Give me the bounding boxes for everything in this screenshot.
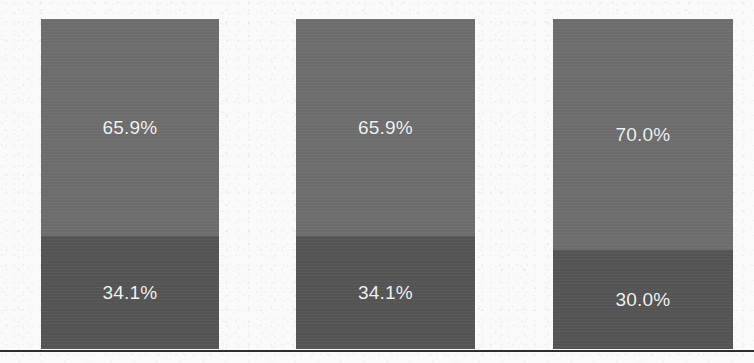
bar-group-3[interactable]: 70.0% 30.0%	[553, 19, 733, 349]
bar-segment-upper-2[interactable]: 65.9%	[296, 19, 475, 236]
bar-segment-upper-3[interactable]: 70.0%	[553, 19, 733, 250]
bar-segment-label: 70.0%	[616, 125, 671, 144]
bar-segment-label: 30.0%	[616, 290, 671, 309]
bar-group-1[interactable]: 65.9% 34.1%	[41, 19, 219, 349]
stacked-bar-chart: 65.9% 34.1% 65.9% 34.1% 70.0% 30.0%	[0, 0, 754, 363]
x-axis-line	[0, 350, 754, 352]
bar-segment-label: 65.9%	[358, 118, 413, 137]
bar-segment-lower-3[interactable]: 30.0%	[553, 250, 733, 349]
bar-segment-label: 65.9%	[103, 118, 158, 137]
bar-segment-lower-1[interactable]: 34.1%	[41, 236, 219, 349]
bar-segment-lower-2[interactable]: 34.1%	[296, 236, 475, 349]
bar-segment-label: 34.1%	[358, 283, 413, 302]
bar-segment-label: 34.1%	[103, 283, 158, 302]
bar-group-2[interactable]: 65.9% 34.1%	[296, 19, 475, 349]
chart-canvas: 65.9% 34.1% 65.9% 34.1% 70.0% 30.0%	[0, 0, 754, 363]
bar-segment-upper-1[interactable]: 65.9%	[41, 19, 219, 236]
